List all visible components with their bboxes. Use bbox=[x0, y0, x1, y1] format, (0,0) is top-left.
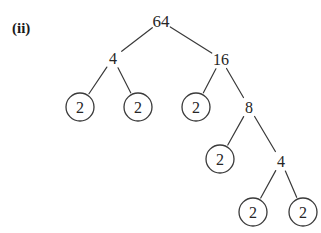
tree-edge bbox=[261, 171, 276, 198]
tree-node-composite: 4 bbox=[277, 153, 285, 170]
tree-node-prime: 2 bbox=[206, 145, 234, 173]
tree-edge bbox=[122, 28, 153, 52]
factor-tree-graph: 6441622282422 bbox=[0, 0, 321, 233]
tree-edge bbox=[228, 117, 244, 145]
tree-node-label: 2 bbox=[299, 204, 307, 221]
tree-edge bbox=[255, 116, 276, 151]
tree-edge bbox=[118, 68, 131, 93]
tree-node-prime: 2 bbox=[182, 93, 210, 121]
nodes-group: 6441622282422 bbox=[66, 12, 317, 226]
tree-node-composite: 8 bbox=[245, 99, 253, 116]
tree-node-label: 2 bbox=[192, 99, 200, 116]
tree-node-label: 64 bbox=[153, 12, 171, 31]
tree-node-label: 2 bbox=[216, 151, 224, 168]
tree-edge bbox=[89, 67, 107, 94]
tree-node-prime: 2 bbox=[66, 93, 94, 121]
tree-node-prime: 2 bbox=[289, 198, 317, 226]
tree-edge bbox=[170, 27, 211, 53]
tree-edge bbox=[285, 171, 296, 197]
factor-tree-figure: (ii) 6441622282422 bbox=[0, 0, 321, 233]
tree-node-label: 2 bbox=[76, 99, 84, 116]
tree-node-label: 2 bbox=[249, 204, 257, 221]
tree-node-prime: 2 bbox=[124, 93, 152, 121]
tree-node-label: 4 bbox=[109, 50, 117, 67]
tree-node-composite: 16 bbox=[213, 51, 229, 68]
tree-node-label: 4 bbox=[277, 153, 285, 170]
tree-node-label: 2 bbox=[134, 99, 142, 116]
tree-node-label: 8 bbox=[245, 99, 253, 116]
tree-edge bbox=[227, 69, 244, 98]
tree-node-composite: 64 bbox=[153, 12, 171, 31]
tree-node-label: 16 bbox=[213, 51, 229, 68]
tree-edge bbox=[203, 69, 216, 93]
tree-node-prime: 2 bbox=[239, 198, 267, 226]
tree-node-composite: 4 bbox=[109, 50, 117, 67]
